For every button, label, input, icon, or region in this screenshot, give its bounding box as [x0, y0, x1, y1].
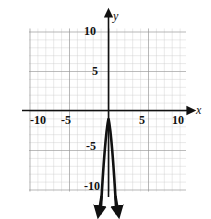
y-tick-label-10: 10 [84, 24, 96, 38]
coordinate-plane: x y -10 -5 5 10 10 5 -5 -10 [0, 0, 211, 219]
x-tick-label-5: 5 [139, 113, 145, 127]
x-tick-label-10: 10 [172, 113, 184, 127]
x-tick-label-neg5: -5 [61, 113, 71, 127]
graph-figure: x y -10 -5 5 10 10 5 -5 -10 [0, 0, 211, 219]
y-tick-label-neg10: -10 [84, 179, 100, 193]
y-axis-label: y [112, 9, 119, 23]
y-tick-label-neg5: -5 [86, 139, 96, 153]
x-axis-label: x [195, 103, 202, 117]
x-tick-label-neg10: -10 [30, 113, 46, 127]
y-tick-label-5: 5 [92, 64, 98, 78]
